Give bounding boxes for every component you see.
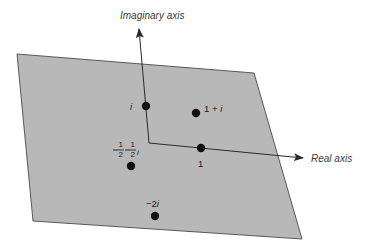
svg-text:i: i [137, 148, 139, 157]
svg-text:2: 2 [131, 150, 136, 159]
complex-plane-diagram: Imaginary axis Real axis i 1 + i 1 1 2 1… [0, 0, 374, 248]
real-axis-label: Real axis [311, 153, 352, 164]
point-neg-2i [151, 212, 159, 220]
point-one [197, 144, 205, 152]
complex-plane-surface [17, 54, 302, 239]
point-i [142, 102, 150, 110]
point-one-label: 1 [198, 158, 203, 169]
point-neg-half-neg-half-i [127, 162, 135, 170]
svg-text:1: 1 [119, 140, 124, 149]
point-neg-2i-label: −2i [146, 198, 160, 209]
point-one-plus-i-label: 1 + i [204, 103, 223, 114]
point-one-plus-i [192, 109, 200, 117]
svg-text:1: 1 [131, 140, 136, 149]
imaginary-axis-label: Imaginary axis [120, 10, 184, 21]
svg-text:2: 2 [119, 150, 124, 159]
